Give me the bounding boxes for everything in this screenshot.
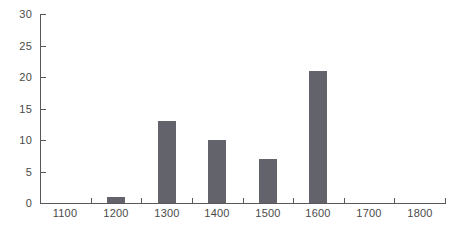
bar bbox=[309, 71, 327, 203]
bar bbox=[208, 140, 226, 203]
y-axis-tick-label: 25 bbox=[0, 41, 32, 52]
x-axis-line bbox=[40, 203, 446, 204]
x-axis-tick-label: 1200 bbox=[103, 208, 128, 219]
y-axis-tick-label: 0 bbox=[0, 198, 32, 209]
bar bbox=[259, 159, 277, 203]
plot-area bbox=[40, 14, 445, 203]
x-axis-tick-label: 1500 bbox=[255, 208, 280, 219]
bar-chart: 051015202530 110012001300140015001600170… bbox=[0, 0, 463, 231]
x-axis-tick-label: 1100 bbox=[53, 208, 77, 219]
x-axis-tick-label: 1300 bbox=[154, 208, 179, 219]
y-axis-tick-label: 20 bbox=[0, 72, 32, 83]
x-axis-tick-label: 1700 bbox=[356, 208, 381, 219]
y-axis-tick-label: 10 bbox=[0, 135, 32, 146]
y-axis-tick-label: 15 bbox=[0, 104, 32, 115]
bar bbox=[158, 121, 176, 203]
y-axis-tick bbox=[41, 203, 46, 204]
x-axis-tick bbox=[445, 198, 446, 203]
y-axis-tick-label: 5 bbox=[0, 167, 32, 178]
x-axis-tick-label: 1400 bbox=[204, 208, 229, 219]
bar bbox=[107, 197, 125, 203]
y-axis-tick-label: 30 bbox=[0, 9, 32, 20]
x-axis-tick-label: 1800 bbox=[407, 208, 432, 219]
x-axis-tick-label: 1600 bbox=[305, 208, 330, 219]
